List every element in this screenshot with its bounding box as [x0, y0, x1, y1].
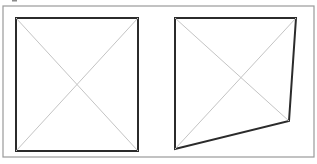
- quadrilateral-panel: [175, 18, 296, 149]
- figure-canvas: [0, 0, 317, 164]
- outer-frame: [3, 6, 314, 157]
- quadrilateral-diagonal-2: [175, 18, 296, 149]
- clipped-label-mark: [12, 0, 17, 2]
- rectangle-panel: [16, 18, 138, 151]
- quadrilateral-diagonal-1: [175, 18, 289, 121]
